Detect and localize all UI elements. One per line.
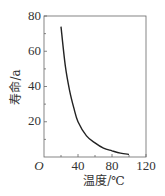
x-axis-ticks	[61, 154, 146, 157]
origin-label: O	[34, 158, 44, 173]
x-tick-label: 120	[136, 158, 156, 173]
lifespan-curve	[61, 27, 129, 155]
x-axis-title: 温度/℃	[83, 173, 124, 188]
y-axis-title: 寿命/a	[8, 69, 23, 104]
y-tick-label: 80	[28, 8, 41, 23]
y-axis-ticks	[44, 16, 47, 139]
x-tick-label: 40	[72, 158, 85, 173]
x-tick-label: 80	[106, 158, 119, 173]
y-tick-label: 60	[28, 43, 41, 58]
plot-frame	[44, 16, 146, 157]
y-tick-label: 40	[28, 78, 41, 93]
y-tick-label: 20	[28, 113, 41, 128]
lifespan-temperature-chart: 80 60 40 20 O 40 80 120 温度/℃ 寿命/a	[0, 0, 165, 196]
